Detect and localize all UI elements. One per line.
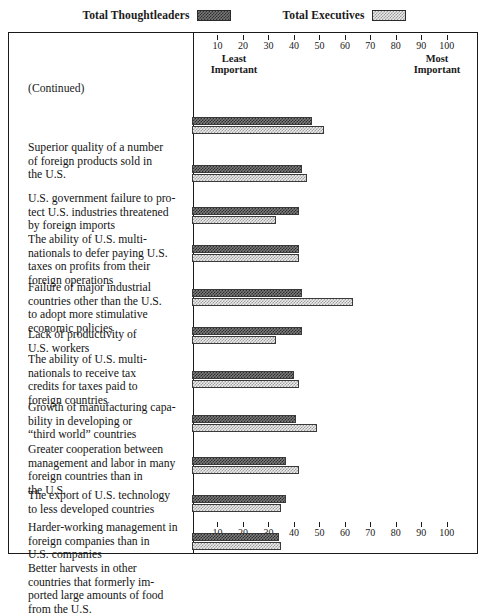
bar-executives: [192, 380, 299, 388]
bar-thoughtleaders: [192, 117, 312, 125]
category-label-line: U.S. companies: [28, 548, 196, 562]
category-label-line: countries that formerly im-: [28, 576, 196, 590]
category-label-line: Growth of manufacturing capa-: [28, 401, 196, 415]
category-label-line: from the U.S.: [28, 603, 196, 616]
category-label-line: Better harvests in other: [28, 562, 196, 576]
category-label-line: foreign countries than in: [28, 470, 196, 484]
category-label: U.S. government failure to pro-tect U.S.…: [28, 192, 196, 233]
legend-item-thoughtleaders: Total Thoughtleaders: [82, 9, 230, 21]
legend-swatch-dark-icon: [197, 10, 231, 21]
category-label-line: The export of U.S. technology: [28, 489, 196, 503]
category-label: The ability of U.S. multi-nationals to d…: [28, 233, 196, 287]
category-label-line: Failure of major industrial: [28, 281, 196, 295]
chart-frame: 102030405060708090100 102030405060708090…: [8, 32, 478, 554]
category-label: The ability of U.S. multi-nationals to r…: [28, 353, 196, 407]
bar-thoughtleaders: [192, 371, 294, 379]
bar-thoughtleaders: [192, 289, 302, 297]
chart-legend: Total Thoughtleaders Total Executives: [0, 0, 488, 30]
category-label-line: U.S. government failure to pro-: [28, 192, 196, 206]
bar-thoughtleaders: [192, 327, 302, 335]
category-label: Harder-working management inforeign comp…: [28, 521, 196, 562]
category-label-line: The ability of U.S. multi-: [28, 353, 196, 367]
category-label-line: taxes on profits from their: [28, 260, 196, 274]
category-label-line: of foreign products sold in: [28, 155, 196, 169]
category-label: Lack of productivity ofU.S. workers: [28, 328, 196, 355]
category-label-line: the U.S.: [28, 168, 196, 182]
bar-executives: [192, 254, 299, 262]
category-label-line: “third world” countries: [28, 428, 196, 442]
category-label-line: tect U.S. industries threatened: [28, 206, 196, 220]
category-label-column: (Continued) Superior quality of a number…: [18, 65, 200, 585]
category-label-line: credits for taxes paid to: [28, 380, 196, 394]
legend-label-executives: Total Executives: [283, 9, 365, 21]
category-label-line: Harder-working management in: [28, 521, 196, 535]
bar-thoughtleaders: [192, 457, 286, 465]
category-label-line: nationals to receive tax: [28, 367, 196, 381]
category-label-line: countries other than the U.S.: [28, 295, 196, 309]
plot-area: 102030405060708090100 102030405060708090…: [192, 33, 477, 553]
bar-executives: [192, 542, 281, 550]
category-label-line: nationals to defer paying U.S.: [28, 247, 196, 261]
bar-group: [192, 33, 477, 553]
category-label-line: Lack of productivity of: [28, 328, 196, 342]
bar-thoughtleaders: [192, 533, 279, 541]
category-label-line: ported large amounts of food: [28, 589, 196, 603]
legend-label-thoughtleaders: Total Thoughtleaders: [82, 9, 189, 21]
bar-thoughtleaders: [192, 207, 299, 215]
category-label-line: to adopt more stimulative: [28, 308, 196, 322]
continued-note: (Continued): [28, 82, 84, 95]
category-label-line: Greater cooperation between: [28, 443, 196, 457]
bar-executives: [192, 174, 307, 182]
category-label: Superior quality of a numberof foreign p…: [28, 141, 196, 182]
bar-executives: [192, 126, 324, 134]
category-label-line: to less developed countries: [28, 503, 196, 517]
category-label: Better harvests in othercountries that f…: [28, 562, 196, 616]
bar-executives: [192, 504, 281, 512]
legend-item-executives: Total Executives: [283, 9, 406, 21]
legend-swatch-light-icon: [372, 10, 406, 21]
bar-executives: [192, 298, 353, 306]
bar-executives: [192, 466, 299, 474]
category-label: The export of U.S. technologyto less dev…: [28, 489, 196, 516]
category-label-line: by foreign imports: [28, 219, 196, 233]
category-label-line: The ability of U.S. multi-: [28, 233, 196, 247]
category-label-line: foreign companies than in: [28, 535, 196, 549]
category-label-line: bility in developing or: [28, 415, 196, 429]
category-label: Growth of manufacturing capa-bility in d…: [28, 401, 196, 442]
bar-executives: [192, 336, 276, 344]
category-label-line: Superior quality of a number: [28, 141, 196, 155]
bar-thoughtleaders: [192, 495, 286, 503]
bar-thoughtleaders: [192, 165, 302, 173]
bar-thoughtleaders: [192, 245, 299, 253]
bar-thoughtleaders: [192, 415, 296, 423]
bar-executives: [192, 216, 276, 224]
bar-executives: [192, 424, 317, 432]
category-label-line: management and labor in many: [28, 457, 196, 471]
